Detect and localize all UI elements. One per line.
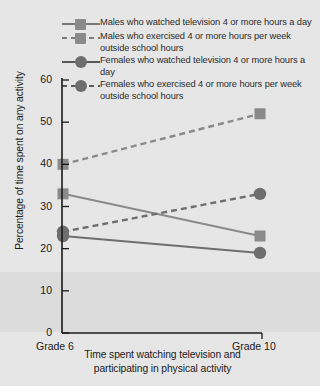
plot-area: 0102030405060 Percentage of time spent o… [0, 0, 320, 386]
x-axis-title-line1: Time spent watching television and [84, 349, 240, 360]
data-point-marker [255, 231, 266, 242]
x-axis-title: Time spent watching television and parti… [55, 348, 270, 375]
series-line [63, 114, 260, 165]
data-point-marker [58, 188, 69, 199]
chart-page: Males who watched television 4 or more h… [0, 0, 320, 386]
data-point-marker [254, 188, 266, 200]
y-tick-label: 30 [30, 200, 52, 212]
series-line [63, 236, 260, 253]
y-tick-label: 60 [30, 73, 52, 85]
y-axis-title: Percentage of time spent on any activity [14, 56, 25, 266]
y-tick-label: 10 [30, 284, 52, 296]
y-tick-label: 0 [30, 326, 52, 338]
y-tick-label: 40 [30, 157, 52, 169]
x-axis-title-line2: participating in physical activity [94, 363, 231, 374]
data-point-marker [254, 247, 266, 259]
data-point-marker [57, 226, 69, 238]
y-tick-label: 20 [30, 242, 52, 254]
data-point-marker [255, 108, 266, 119]
y-tick-label: 50 [30, 115, 52, 127]
